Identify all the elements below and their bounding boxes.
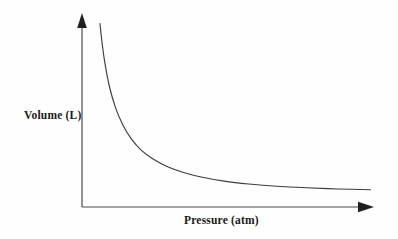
y-axis-arrowhead-icon	[77, 13, 87, 28]
x-axis-arrowhead-icon	[358, 202, 374, 212]
y-axis-label: Volume (L)	[24, 109, 81, 121]
data-series-curve	[100, 24, 371, 190]
chart-figure: Volume (L) Pressure (atm)	[0, 0, 398, 239]
x-axis-label: Pressure (atm)	[184, 214, 259, 226]
